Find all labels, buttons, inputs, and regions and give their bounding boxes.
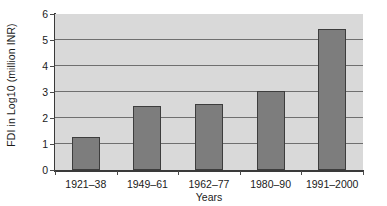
bar[interactable] [195, 104, 223, 170]
y-tick-label: 6 [30, 9, 48, 20]
bar[interactable] [133, 106, 161, 170]
x-tick-mark [301, 171, 302, 175]
bar-slot [301, 14, 363, 170]
y-tick-label: 4 [30, 61, 48, 72]
bar-slot [240, 14, 302, 170]
y-tick-mark [50, 14, 55, 15]
bar[interactable] [72, 137, 100, 170]
bar-slot [178, 14, 240, 170]
x-tick-mark [178, 171, 179, 175]
y-tick-mark [50, 118, 55, 119]
bar[interactable] [318, 29, 346, 170]
y-axis-title: FDI in Log10 (million INR) [0, 0, 22, 170]
y-tick-mark [50, 66, 55, 67]
y-tick-mark [50, 170, 55, 171]
y-tick-label: 1 [30, 139, 48, 150]
plot-area [55, 14, 363, 170]
y-tick-mark [50, 40, 55, 41]
y-tick-label: 0 [30, 165, 48, 176]
y-axis-tick-labels: 0123456 [30, 14, 48, 170]
x-tick-mark [240, 171, 241, 175]
x-tick-mark [55, 171, 56, 175]
y-tick-label: 2 [30, 113, 48, 124]
y-tick-label: 5 [30, 35, 48, 46]
bars-container [55, 14, 363, 170]
x-tick-mark [363, 171, 364, 175]
bar-slot [117, 14, 179, 170]
bar-chart: FDI in Log10 (million INR) 0123456 1921–… [0, 0, 387, 206]
y-tick-mark [50, 92, 55, 93]
x-axis-title: Years [55, 190, 363, 204]
y-tick-mark [50, 144, 55, 145]
bar-slot [55, 14, 117, 170]
y-tick-label: 3 [30, 87, 48, 98]
x-tick-mark [117, 171, 118, 175]
bar[interactable] [257, 91, 285, 170]
